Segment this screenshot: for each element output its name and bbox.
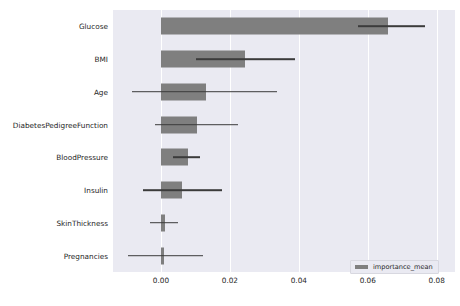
bar-row [113, 10, 455, 43]
x-tick-label-0.02: 0.02 [222, 276, 238, 285]
bar-row [113, 43, 455, 76]
error-bar [143, 189, 222, 191]
error-bar [132, 91, 277, 93]
y-tick-label-diabetespedigreefunction: DiabetesPedigreeFunction [13, 120, 108, 129]
y-tick-label-insulin: Insulin [84, 186, 108, 195]
y-axis-tick-labels: GlucoseBMIAgeDiabetesPedigreeFunctionBlo… [0, 10, 108, 272]
plot-area [113, 10, 455, 272]
error-bar [358, 26, 425, 28]
y-tick-label-skinthickness: SkinThickness [56, 218, 108, 227]
x-axis-tick-labels: 0.000.020.040.060.08 [113, 276, 455, 292]
x-tick-label-0.00: 0.00 [153, 276, 169, 285]
figure: GlucoseBMIAgeDiabetesPedigreeFunctionBlo… [0, 0, 460, 306]
error-bar [155, 124, 238, 126]
x-tick-label-0.08: 0.08 [429, 276, 445, 285]
error-bar [196, 58, 295, 60]
bar-row [113, 76, 455, 109]
y-tick-label-bloodpressure: BloodPressure [56, 153, 108, 162]
y-tick-label-bmi: BMI [95, 55, 108, 64]
bar-row [113, 108, 455, 141]
bar-row [113, 141, 455, 174]
y-tick-label-glucose: Glucose [79, 22, 108, 31]
error-bar [128, 255, 203, 257]
legend-swatch-importance-mean [355, 265, 368, 270]
legend-label-importance-mean: importance_mean [373, 263, 433, 271]
x-tick-label-0.04: 0.04 [291, 276, 307, 285]
bar [161, 18, 388, 35]
error-bar [150, 222, 178, 224]
bar-row [113, 207, 455, 240]
y-tick-label-age: Age [94, 87, 108, 96]
bar-row [113, 174, 455, 207]
error-bar [173, 157, 200, 159]
y-tick-label-pregnancies: Pregnancies [64, 251, 108, 260]
x-tick-label-0.06: 0.06 [360, 276, 376, 285]
legend: importance_mean [350, 260, 439, 274]
